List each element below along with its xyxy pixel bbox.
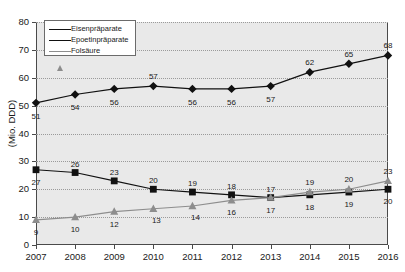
- point-label-s1-2012: 18: [217, 183, 247, 191]
- x-tick-mark-2011: [192, 245, 193, 249]
- x-tick-label-2012: 2012: [211, 252, 253, 262]
- legend-item-folsaeure: Folsäure: [49, 46, 131, 56]
- x-tick-label-2014: 2014: [289, 252, 331, 262]
- gridline-40: [36, 134, 388, 135]
- y-tick-label-60: 60: [3, 73, 29, 83]
- gridline-10: [36, 217, 388, 218]
- triangle-marker-icon: [57, 48, 63, 71]
- y-tick-label-80: 80: [3, 17, 29, 27]
- x-tick-label-2011: 2011: [171, 252, 213, 262]
- point-label-s2-2010: 13: [141, 217, 171, 225]
- x-tick-label-2015: 2015: [328, 252, 370, 262]
- point-label-s1-2007: 27: [21, 179, 51, 187]
- point-label-s2-2014: 19: [295, 179, 325, 187]
- x-tick-label-2009: 2009: [93, 252, 135, 262]
- point-label-s1-2014: 18: [295, 204, 325, 212]
- point-label-s0-2011: 56: [177, 99, 207, 107]
- point-label-s0-2007: 51: [21, 113, 51, 121]
- y-tick-mark-10: [32, 217, 36, 218]
- x-tick-label-2010: 2010: [132, 252, 174, 262]
- point-label-s1-2016: 20: [373, 198, 403, 206]
- point-label-s0-2016: 68: [373, 42, 403, 50]
- x-tick-mark-2015: [349, 245, 350, 249]
- x-tick-mark-2013: [271, 245, 272, 249]
- y-axis-title: (Mio. DDD): [6, 89, 17, 159]
- y-tick-mark-20: [32, 189, 36, 190]
- y-tick-mark-60: [32, 78, 36, 79]
- legend-label-1: Epoetinpräparate: [71, 36, 129, 44]
- point-label-s2-2012: 16: [217, 209, 247, 217]
- point-label-s1-2015: 19: [334, 201, 364, 209]
- x-tick-mark-2007: [36, 245, 37, 249]
- point-label-s0-2012: 56: [217, 99, 247, 107]
- legend-key-triangle: [49, 46, 71, 56]
- point-label-s2-2015: 20: [334, 176, 364, 184]
- y-tick-label-0: 0: [3, 240, 29, 250]
- point-label-s0-2014: 62: [295, 59, 325, 67]
- point-label-s0-2008: 54: [60, 104, 90, 112]
- y-tick-mark-50: [32, 106, 36, 107]
- gridline-20: [36, 189, 388, 190]
- x-tick-label-2008: 2008: [54, 252, 96, 262]
- legend-key-diamond: [49, 24, 71, 34]
- y-tick-mark-80: [32, 22, 36, 23]
- point-label-s0-2010: 57: [138, 73, 168, 81]
- x-tick-label-2013: 2013: [250, 252, 292, 262]
- x-tick-label-2016: 2016: [367, 252, 405, 262]
- point-label-s2-2009: 12: [99, 221, 129, 229]
- point-label-s1-2013: 17: [256, 207, 286, 215]
- point-label-s1-2008: 26: [60, 161, 90, 169]
- point-label-s0-2009: 56: [99, 99, 129, 107]
- point-label-s2-2008: 10: [60, 226, 90, 234]
- point-label-s0-2013: 57: [256, 96, 286, 104]
- point-label-s1-2009: 23: [99, 169, 129, 177]
- y-tick-mark-70: [32, 50, 36, 51]
- chart-legend: Eisenpräparate Epoetinpräparate Folsäure: [44, 20, 136, 56]
- point-label-s2-2013: 17: [256, 186, 286, 194]
- chart-container: 01020304050607080 2007200820092010201120…: [0, 0, 405, 272]
- gridline-60: [36, 78, 388, 79]
- x-tick-mark-2009: [114, 245, 115, 249]
- legend-label-0: Eisenpräparate: [71, 25, 122, 33]
- x-tick-mark-2012: [232, 245, 233, 249]
- y-tick-label-10: 10: [3, 212, 29, 222]
- legend-label-2: Folsäure: [71, 47, 100, 55]
- legend-item-eisenpraeparate: Eisenpräparate: [49, 24, 131, 34]
- x-tick-label-2007: 2007: [15, 252, 57, 262]
- point-label-s0-2015: 65: [334, 51, 364, 59]
- x-tick-mark-2010: [153, 245, 154, 249]
- point-label-s2-2007: 9: [21, 229, 51, 237]
- point-label-s2-2011: 14: [180, 214, 210, 222]
- point-label-s2-2016: 23: [373, 168, 403, 176]
- legend-item-epoetinpraeparate: Epoetinpräparate: [49, 35, 131, 45]
- x-tick-mark-2016: [388, 245, 389, 249]
- point-label-s1-2010: 20: [138, 177, 168, 185]
- y-tick-label-70: 70: [3, 45, 29, 55]
- x-tick-mark-2008: [75, 245, 76, 249]
- legend-key-square: [49, 35, 71, 45]
- y-tick-mark-40: [32, 134, 36, 135]
- y-tick-mark-30: [32, 161, 36, 162]
- point-label-s1-2011: 19: [177, 180, 207, 188]
- x-tick-mark-2014: [310, 245, 311, 249]
